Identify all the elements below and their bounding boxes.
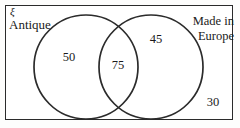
- set-label-antique: Antique: [9, 18, 51, 32]
- venn-diagram-figure: ξ Antique Made in Europe 50 75 45 30: [0, 0, 240, 128]
- region-count-intersection: 75: [105, 59, 131, 72]
- set-label-made-in-europe-line2: Europe: [193, 29, 234, 44]
- region-count-left-only: 50: [56, 51, 82, 64]
- region-count-right-only: 45: [143, 33, 169, 46]
- universal-set-symbol: ξ: [10, 6, 15, 18]
- set-label-made-in-europe-line1: Made in: [193, 14, 234, 29]
- region-count-outside: 30: [200, 96, 226, 109]
- set-label-made-in-europe: Made in Europe: [193, 14, 234, 44]
